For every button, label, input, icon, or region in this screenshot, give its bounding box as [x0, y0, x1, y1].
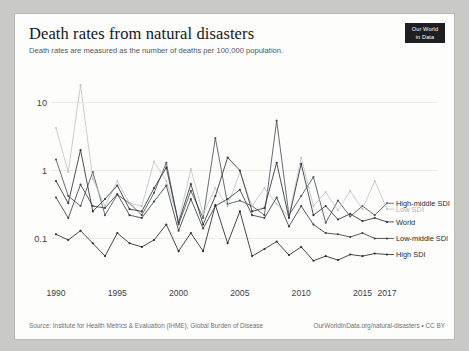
series-point-low-sdi	[337, 209, 339, 211]
series-point-world	[239, 169, 241, 171]
chart-plot-area[interactable]: 0.1110 1990199520002005201020152017 High…	[15, 62, 454, 314]
series-point-low-middle-sdi	[153, 200, 155, 202]
chart-header: Death rates from natural disasters Death…	[29, 24, 359, 56]
series-point-world	[67, 202, 69, 204]
chart-subtitle: Death rates are measured as the number o…	[29, 46, 359, 56]
series-point-world	[190, 183, 192, 185]
series-point-high-middle-sdi	[312, 176, 314, 178]
series-point-world	[337, 218, 339, 220]
legend-label-world[interactable]: World	[396, 218, 415, 227]
series-point-low-sdi	[116, 180, 118, 182]
series-point-low-sdi	[349, 190, 351, 192]
series-point-low-middle-sdi	[165, 184, 167, 186]
series-point-world	[386, 221, 388, 223]
series-point-low-sdi	[386, 208, 388, 210]
series-point-world	[251, 210, 253, 212]
link-note[interactable]: OurWorldInData.org/natural-disasters • C…	[314, 322, 445, 329]
series-point-high-middle-sdi	[214, 137, 216, 139]
series-point-world	[288, 217, 290, 219]
series-point-low-middle-sdi	[190, 198, 192, 200]
series-point-world	[165, 167, 167, 169]
series-point-world	[202, 224, 204, 226]
series-point-world	[300, 163, 302, 165]
series-point-high-sdi	[104, 255, 106, 257]
series-point-low-sdi	[92, 178, 94, 180]
series-point-world	[141, 210, 143, 212]
legend-label-low-middle-sdi[interactable]: Low-middle SDI	[396, 234, 448, 243]
series-point-high-middle-sdi	[190, 190, 192, 192]
series-point-low-sdi	[165, 180, 167, 182]
series-point-low-middle-sdi	[312, 224, 314, 226]
series-point-high-sdi	[141, 246, 143, 248]
series-point-low-middle-sdi	[116, 193, 118, 195]
chart-footer: Source: Institute for Health Metrics & E…	[29, 322, 445, 333]
x-tick-label-1995: 1995	[108, 288, 127, 298]
x-tick-label-2000: 2000	[169, 288, 188, 298]
chart-gridlines	[52, 102, 437, 238]
series-point-high-sdi	[349, 253, 351, 255]
series-point-high-middle-sdi	[276, 120, 278, 122]
series-point-high-sdi	[214, 204, 216, 206]
series-point-high-sdi	[374, 252, 376, 254]
series-point-low-middle-sdi	[337, 233, 339, 235]
owid-logo[interactable]: Our World in Data	[405, 23, 445, 43]
series-point-world	[361, 220, 363, 222]
series-point-high-middle-sdi	[386, 202, 388, 204]
series-point-high-sdi	[386, 253, 388, 255]
series-point-low-sdi	[312, 205, 314, 207]
series-point-high-middle-sdi	[141, 214, 143, 216]
series-point-low-sdi	[325, 191, 327, 193]
series-point-high-middle-sdi	[178, 224, 180, 226]
series-point-high-sdi	[276, 241, 278, 243]
series-point-world	[276, 162, 278, 164]
series-point-low-middle-sdi	[92, 205, 94, 207]
series-point-high-middle-sdi	[263, 214, 265, 216]
x-axis-tick-labels: 1990199520002005201020152017	[46, 288, 396, 298]
series-point-low-sdi	[251, 205, 253, 207]
series-point-low-sdi	[67, 171, 69, 173]
series-point-world	[79, 149, 81, 151]
series-point-low-sdi	[227, 205, 229, 207]
series-point-high-middle-sdi	[79, 205, 81, 207]
series-point-world	[214, 195, 216, 197]
series-point-high-middle-sdi	[55, 158, 57, 160]
series-point-high-sdi	[165, 224, 167, 226]
series-point-world	[153, 187, 155, 189]
x-tick-label-2005: 2005	[230, 288, 249, 298]
series-point-low-middle-sdi	[141, 217, 143, 219]
series-point-high-middle-sdi	[300, 195, 302, 197]
series-point-low-middle-sdi	[239, 189, 241, 191]
series-point-low-middle-sdi	[79, 184, 81, 186]
series-line-low-middle-sdi[interactable]	[56, 185, 387, 239]
series-point-high-sdi	[116, 232, 118, 234]
series-point-high-sdi	[325, 255, 327, 257]
series-point-high-sdi	[92, 242, 94, 244]
line-chart-svg: 0.1110 1990199520002005201020152017 High…	[15, 62, 454, 314]
series-point-low-middle-sdi	[55, 196, 57, 198]
series-point-high-middle-sdi	[165, 162, 167, 164]
series-point-high-middle-sdi	[104, 214, 106, 216]
series-point-low-sdi	[79, 84, 81, 86]
series-point-world	[227, 156, 229, 158]
series-point-world	[92, 210, 94, 212]
x-tick-label-2010: 2010	[292, 288, 311, 298]
series-point-high-sdi	[337, 259, 339, 261]
series-point-high-sdi	[239, 210, 241, 212]
page-title: Death rates from natural disasters	[29, 24, 359, 43]
series-point-world	[312, 214, 314, 216]
series-point-low-sdi	[361, 208, 363, 210]
series-point-high-sdi	[79, 230, 81, 232]
chart-inline-legend[interactable]: High-middle SDILow SDIWorldLow-middle SD…	[388, 199, 450, 259]
legend-label-high-sdi[interactable]: High SDI	[396, 250, 426, 259]
series-point-low-middle-sdi	[104, 207, 106, 209]
series-point-world	[116, 184, 118, 186]
series-point-high-sdi	[300, 246, 302, 248]
series-point-high-middle-sdi	[67, 195, 69, 197]
series-point-high-sdi	[227, 242, 229, 244]
series-point-world	[104, 198, 106, 200]
x-tick-label-2015: 2015	[353, 288, 372, 298]
series-point-low-middle-sdi	[325, 232, 327, 234]
chart-card: Death rates from natural disasters Death…	[14, 13, 455, 340]
legend-label-low-sdi[interactable]: Low SDI	[396, 205, 424, 214]
screenshot-page: Death rates from natural disasters Death…	[0, 0, 469, 351]
